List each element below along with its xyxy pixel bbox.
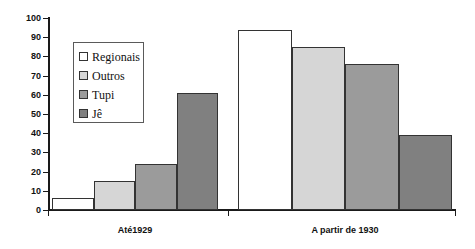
legend-swatch-icon [79, 109, 88, 118]
x-axis-group-label: A partir de 1930 [238, 225, 452, 236]
y-axis-tick [43, 56, 49, 57]
y-axis-tick [43, 191, 49, 192]
y-axis-tick-label: 40 [1, 129, 41, 138]
y-axis-tick [43, 152, 49, 153]
plot-area: 0102030405060708090100 Até1929A partir d… [0, 0, 475, 249]
bar-tupi-group-2 [345, 64, 399, 210]
bar-j--group-1 [177, 93, 219, 210]
y-axis-tick-label: 90 [1, 33, 41, 42]
x-axis-group-label: Até1929 [52, 225, 218, 236]
x-axis-tick [455, 211, 456, 216]
y-axis-tick-label: 50 [1, 110, 41, 119]
y-axis-tick-label: 0 [1, 206, 41, 215]
legend-item-label: Jê [92, 108, 102, 120]
y-axis-tick [43, 172, 49, 173]
legend-swatch-icon [79, 71, 88, 80]
y-axis-tick [43, 37, 49, 38]
y-axis-tick-label: 30 [1, 148, 41, 157]
legend-item-label: Tupi [92, 89, 114, 101]
bar-chart-figure: 0102030405060708090100 Até1929A partir d… [0, 0, 475, 249]
bar-j--group-2 [399, 135, 453, 210]
legend-item-j-: Jê [79, 104, 143, 123]
bar-outros-group-1 [94, 181, 136, 210]
y-axis-tick [43, 18, 49, 19]
y-axis-tick-label: 20 [1, 168, 41, 177]
y-axis-tick [43, 95, 49, 96]
y-axis-tick-label: 70 [1, 72, 41, 81]
y-axis-tick [43, 76, 49, 77]
y-axis-tick-label: 10 [1, 187, 41, 196]
y-axis-tick-label: 60 [1, 91, 41, 100]
x-axis-tick [228, 211, 229, 216]
legend-item-regionais: Regionais [79, 47, 143, 66]
legend-swatch-icon [79, 52, 88, 61]
chart-legend: RegionaisOutrosTupiJê [73, 42, 144, 123]
legend-item-label: Outros [92, 70, 125, 82]
bar-outros-group-2 [292, 47, 346, 210]
y-axis-tick-label: 80 [1, 52, 41, 61]
bar-tupi-group-1 [135, 164, 177, 210]
legend-item-outros: Outros [79, 66, 143, 85]
y-axis-tick-label: 100 [1, 14, 41, 23]
legend-item-label: Regionais [92, 51, 140, 63]
legend-item-tupi: Tupi [79, 85, 143, 104]
bar-regionais-group-2 [238, 30, 292, 210]
x-axis-tick [48, 211, 49, 216]
legend-swatch-icon [79, 90, 88, 99]
bar-regionais-group-1 [52, 198, 94, 210]
y-axis-tick [43, 114, 49, 115]
y-axis-tick [43, 133, 49, 134]
